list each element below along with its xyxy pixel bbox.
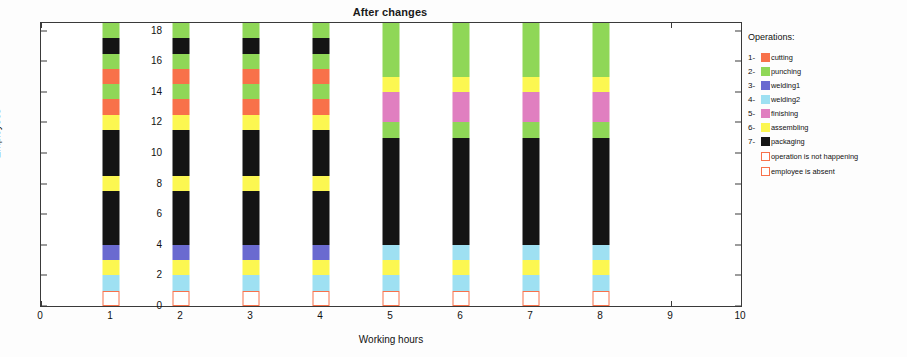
x-tick-mark (741, 23, 742, 28)
bar-segment-welding1 (173, 245, 190, 260)
bar-segment-assembling (243, 176, 260, 191)
bar-segment-assembling (313, 176, 330, 191)
legend-entry-punching: 2-punching (748, 65, 903, 78)
bar-segment-packaging (313, 38, 330, 53)
bar-segment-punching (383, 122, 400, 137)
legend-label-welding2: welding2 (771, 95, 800, 104)
y-tick-mark (735, 275, 741, 276)
bar-segment-finishing (523, 92, 540, 123)
legend-swatch-punching (761, 67, 770, 76)
x-tick-mark (41, 301, 42, 306)
legend-entry-finishing: 5-finishing (748, 107, 903, 120)
x-tick-label-2: 2 (165, 310, 195, 321)
bar-segment-packaging (103, 38, 120, 53)
legend-entry-assembling: 6-assembling (748, 121, 903, 134)
bar-segment-punching (243, 23, 260, 38)
y-tick-mark (41, 122, 47, 123)
x-tick-label-8: 8 (585, 310, 615, 321)
legend-swatch-packaging (761, 137, 770, 146)
bar-hour-7[interactable] (523, 23, 540, 306)
bar-hour-3[interactable] (243, 23, 260, 306)
bar-hour-5[interactable] (383, 23, 400, 306)
bar-segment-packaging (103, 191, 120, 245)
y-tick-label-14: 14 (122, 85, 162, 96)
bar-segment-welding2 (313, 275, 330, 290)
legend-index: 7- (748, 137, 761, 146)
bar-hour-1[interactable] (103, 23, 120, 306)
bar-segment-packaging (243, 38, 260, 53)
bar-segment-punching (523, 122, 540, 137)
legend-index: 5- (748, 109, 761, 118)
bar-segment-assembling (103, 115, 120, 130)
bar-segment-not-happening (593, 291, 610, 306)
bar-segment-not-happening (243, 291, 260, 306)
legend: Operations: 1-cutting2-punching3-welding… (748, 32, 903, 179)
bar-segment-assembling (243, 260, 260, 275)
bar-segment-assembling (453, 260, 470, 275)
bar-segment-punching (103, 54, 120, 69)
y-tick-mark (735, 153, 741, 154)
legend-note: operation is not happening (748, 150, 903, 163)
legend-entry-welding1: 3-welding1 (748, 79, 903, 92)
bar-segment-assembling (173, 115, 190, 130)
bar-segment-welding2 (453, 275, 470, 290)
legend-index: 2- (748, 67, 761, 76)
bar-segment-assembling (593, 260, 610, 275)
y-tick-mark (41, 91, 47, 92)
bar-segment-punching (383, 23, 400, 77)
y-tick-mark (735, 214, 741, 215)
y-tick-label-2: 2 (122, 269, 162, 280)
bar-segment-finishing (593, 92, 610, 123)
legend-swatch-welding1 (761, 81, 770, 90)
bar-segment-punching (243, 54, 260, 69)
bar-segment-punching (593, 23, 610, 77)
legend-swatch-finishing (761, 109, 770, 118)
legend-entry-welding2: 4-welding2 (748, 93, 903, 106)
y-tick-mark (735, 244, 741, 245)
bar-segment-packaging (243, 191, 260, 245)
chart-title: After changes (40, 6, 740, 18)
bar-segment-not-happening (173, 291, 190, 306)
bar-hour-2[interactable] (173, 23, 190, 306)
bar-segment-cutting (173, 69, 190, 84)
x-tick-label-4: 4 (305, 310, 335, 321)
bar-segment-packaging (453, 138, 470, 245)
bar-segment-packaging (173, 130, 190, 176)
bar-segment-punching (593, 122, 610, 137)
bar-hour-8[interactable] (593, 23, 610, 306)
y-tick-label-10: 10 (122, 147, 162, 158)
bar-segment-cutting (313, 69, 330, 84)
bar-segment-not-happening (383, 291, 400, 306)
x-tick-label-0: 0 (25, 310, 55, 321)
bar-segment-welding2 (243, 275, 260, 290)
legend-index: 1- (748, 53, 761, 62)
bar-segment-assembling (523, 77, 540, 92)
bar-segment-packaging (593, 138, 610, 245)
bar-segment-not-happening (523, 291, 540, 306)
bar-segment-punching (453, 23, 470, 77)
y-tick-mark (41, 214, 47, 215)
y-tick-label-8: 8 (122, 177, 162, 188)
y-axis-label: Employees (0, 74, 2, 194)
bar-segment-punching (453, 122, 470, 137)
legend-label-punching: punching (771, 67, 801, 76)
bar-segment-assembling (313, 115, 330, 130)
bar-segment-welding2 (593, 245, 610, 260)
x-tick-mark (741, 301, 742, 306)
bar-segment-assembling (103, 260, 120, 275)
bar-hour-6[interactable] (453, 23, 470, 306)
legend-entry-packaging: 7-packaging (748, 135, 903, 148)
bar-segment-assembling (243, 115, 260, 130)
x-tick-label-3: 3 (235, 310, 265, 321)
bar-segment-welding2 (103, 275, 120, 290)
x-tick-label-9: 9 (655, 310, 685, 321)
legend-note-label: employee is absent (771, 167, 835, 176)
bar-hour-4[interactable] (313, 23, 330, 306)
bar-segment-assembling (173, 176, 190, 191)
legend-title: Operations: (748, 32, 903, 42)
bar-segment-punching (313, 84, 330, 99)
legend-swatch-assembling (761, 123, 770, 132)
bar-segment-welding2 (523, 245, 540, 260)
legend-note-label: operation is not happening (771, 152, 858, 161)
legend-swatch-welding2 (761, 95, 770, 104)
